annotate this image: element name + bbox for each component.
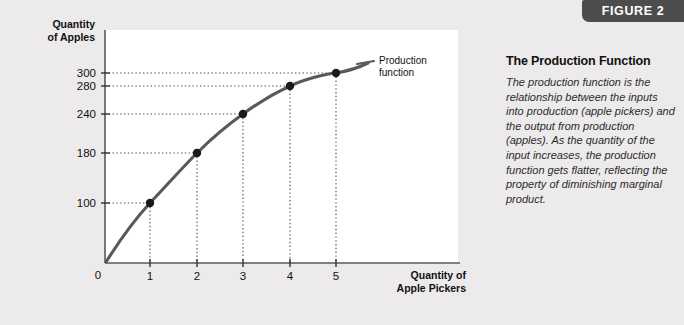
y-tick-label-240: 240 [77,108,96,120]
x-tick-label-1: 1 [147,270,153,282]
x-tick-label-5: 5 [333,270,339,282]
y-tick-label-280: 280 [77,80,96,92]
caption-title: The Production Function [506,54,678,68]
x-tick-label-3: 3 [240,270,246,282]
x-axis-title-line1: Quantity of [411,269,467,281]
caption-block: The Production Function The production f… [506,54,678,206]
data-point-1 [146,199,154,207]
y-tick-label-100: 100 [77,197,96,209]
y-axis-title-line1: Quantity [52,18,95,30]
x-tick-label-4: 4 [287,270,294,282]
data-point-4 [286,82,294,90]
curve-label-leader-line [357,61,374,64]
y-axis-title-line2: of Apples [48,31,96,43]
data-point-5 [332,69,340,77]
origin-label: 0 [95,269,101,281]
curve-label-line1: Production [379,55,427,66]
y-tick-label-300: 300 [77,67,96,79]
x-tick-label-2: 2 [194,270,200,282]
figure-container: FIGURE 2 Quantity of Apples Quantity of … [0,0,684,325]
x-axis-title-line2: Apple Pickers [397,282,467,294]
data-point-3 [239,110,247,118]
production-function-curve [106,63,368,262]
y-tick-label-180: 180 [77,147,96,159]
data-point-2 [193,149,201,157]
caption-body-text: The production function is the relations… [506,75,678,206]
curve-label-line2: function [379,67,414,78]
